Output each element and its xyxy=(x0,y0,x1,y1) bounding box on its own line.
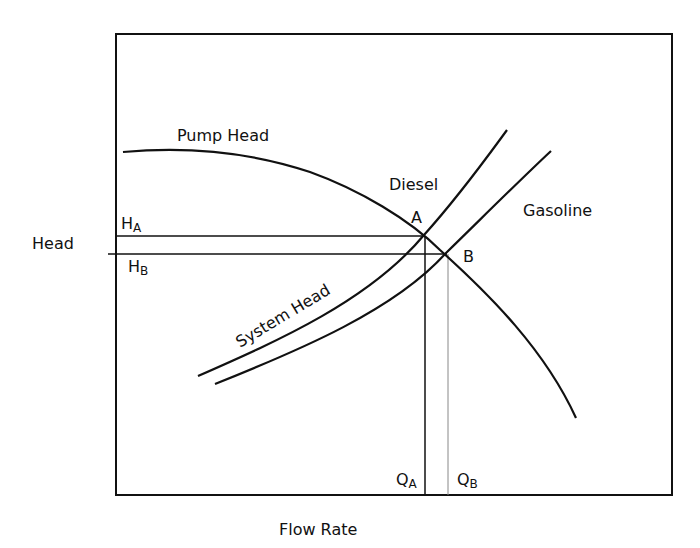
y-axis-label: Head xyxy=(32,234,74,253)
pump-head-label: Pump Head xyxy=(177,126,269,145)
x-axis-label: Flow Rate xyxy=(279,520,357,539)
pump-system-diagram: Pump Head Diesel Gasoline A B System Hea… xyxy=(0,0,700,548)
point-a-label: A xyxy=(411,208,422,227)
gasoline-label: Gasoline xyxy=(523,201,592,220)
qa-marker: QA xyxy=(396,470,418,491)
hb-marker: HB xyxy=(128,257,148,278)
ha-marker: HA xyxy=(121,214,142,235)
qb-marker: QB xyxy=(457,470,478,491)
pump-head-curve xyxy=(123,150,576,418)
gasoline-system-curve xyxy=(215,151,551,384)
point-b-label: B xyxy=(463,247,474,266)
diesel-label: Diesel xyxy=(389,175,438,194)
